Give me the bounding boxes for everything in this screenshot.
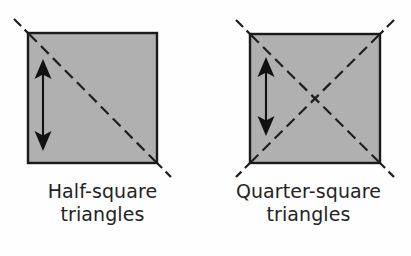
figure-root: Half-square triangles: [0, 0, 411, 256]
caption-line-1: Quarter-square: [206, 180, 411, 203]
panel-quarter-square: Quarter-square triangles: [206, 0, 411, 256]
caption-line-1: Half-square: [0, 180, 205, 203]
caption-line-2: triangles: [206, 203, 411, 226]
caption-line-2: triangles: [0, 203, 205, 226]
quarter-square-diagram: [206, 0, 411, 200]
panel-half-square: Half-square triangles: [0, 0, 205, 256]
caption-quarter-square: Quarter-square triangles: [206, 180, 411, 226]
half-square-diagram: [0, 0, 205, 200]
caption-half-square: Half-square triangles: [0, 180, 205, 226]
